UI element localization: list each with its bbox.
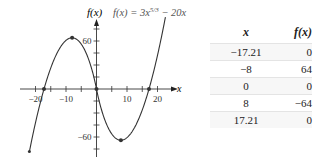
x-tick-label: 20: [153, 94, 163, 104]
marked-point: [95, 87, 99, 91]
cell-fx: −64: [282, 95, 312, 112]
cell-x: −8: [210, 61, 282, 78]
marked-point: [42, 87, 46, 91]
table-row: 17.210: [210, 112, 312, 129]
table-header-x: x: [210, 23, 282, 44]
table-row: 00: [210, 78, 312, 95]
y-tick-label: −60: [77, 132, 92, 142]
table-row: 8−64: [210, 95, 312, 112]
curve-endpoint: [28, 150, 31, 153]
cell-x: −17.21: [210, 44, 282, 61]
cell-fx: 0: [282, 78, 312, 95]
y-axis-arrow: [94, 19, 99, 26]
values-table: x f(x) −17.210 −864 00 8−64 17.210: [210, 23, 312, 128]
x-tick-label: 10: [123, 94, 133, 104]
function-plot: −20−10102060−60 f(x) x f(x) = 3x5/3 − 20…: [0, 0, 200, 162]
function-curve: [29, 17, 165, 152]
marked-point: [119, 138, 123, 142]
x-axis-label: x: [176, 83, 182, 94]
y-tick-label: 60: [83, 36, 93, 46]
table-header-fx: f(x): [282, 23, 312, 44]
cell-x: 0: [210, 78, 282, 95]
y-axis-label: f(x): [87, 6, 103, 19]
cell-fx: 64: [282, 61, 312, 78]
cell-fx: 0: [282, 112, 312, 129]
chart-title: f(x) = 3x5/3 − 20x: [113, 6, 187, 19]
marked-point: [70, 36, 74, 40]
cell-fx: 0: [282, 44, 312, 61]
cell-x: 17.21: [210, 112, 282, 129]
table-row: −17.210: [210, 44, 312, 61]
x-tick-label: −10: [59, 94, 74, 104]
table-row: −864: [210, 61, 312, 78]
marked-point: [147, 87, 151, 91]
cell-x: 8: [210, 95, 282, 112]
